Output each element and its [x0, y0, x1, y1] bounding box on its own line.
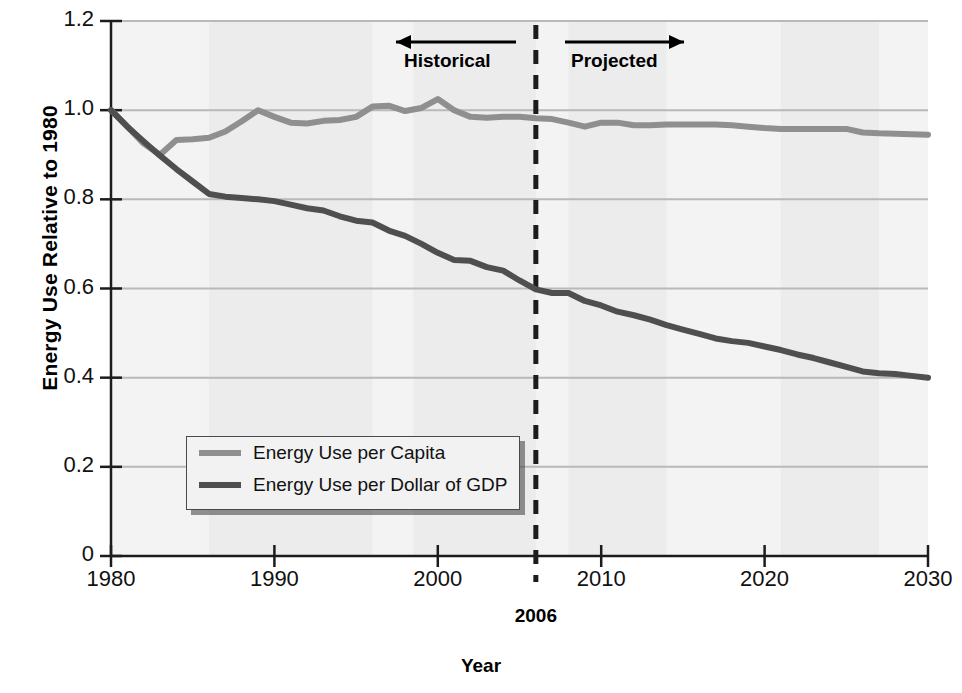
legend-item-per-gdp: Energy Use per Dollar of GDP — [187, 469, 519, 501]
legend-label-per-capita: Energy Use per Capita — [253, 442, 445, 464]
annotation-historical: Historical — [404, 50, 491, 72]
legend-item-per-capita: Energy Use per Capita — [187, 437, 519, 469]
legend-label-per-gdp: Energy Use per Dollar of GDP — [253, 474, 508, 496]
chart-legend: Energy Use per Capita Energy Use per Dol… — [186, 436, 520, 510]
annotation-projected: Projected — [571, 50, 658, 72]
chart-plot-area — [0, 0, 962, 693]
legend-swatch-per-gdp — [199, 482, 241, 488]
chart-root: Energy Use Relative to 1980 Year 1.21.00… — [0, 0, 962, 693]
legend-swatch-per-capita — [199, 450, 241, 456]
